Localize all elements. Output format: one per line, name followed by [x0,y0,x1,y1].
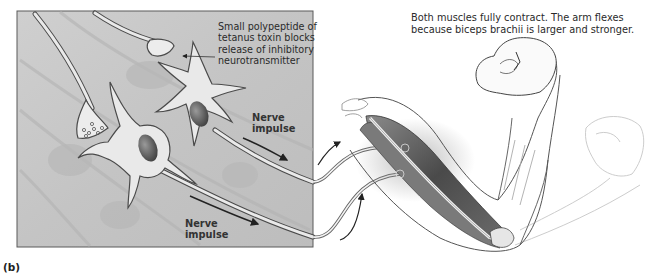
panel-label: (b) [3,261,20,273]
toxin-label: Small polypeptide of tetanus toxin block… [218,21,318,67]
nerve-impulse-label-upper: Nerve impulse [252,112,297,134]
tetanus-figure: Small polypeptide of tetanus toxin block… [0,0,655,277]
forearm [498,118,548,245]
figure-illustration [0,0,655,277]
nerve-impulse-label-lower: Nerve impulse [185,218,230,240]
figure-caption: Both muscles fully contract. The arm fle… [411,12,651,36]
extended-arm-ghost [515,117,644,246]
flexed-arm [342,38,644,252]
